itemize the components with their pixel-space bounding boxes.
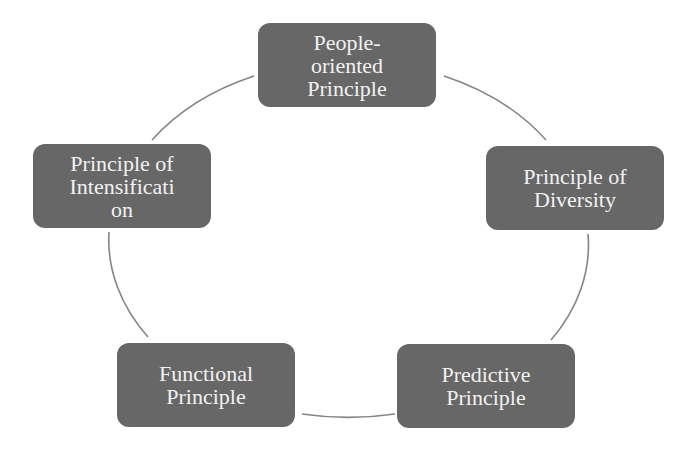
arc-intensification-to-people [152,76,254,140]
arc-functional-to-intensification [109,232,148,337]
arc-predictive-to-functional [302,414,395,417]
node-label: People- oriented Principle [307,31,386,100]
node-principle-of-diversity: Principle of Diversity [486,146,664,230]
node-functional-principle: Functional Principle [117,343,295,427]
arc-diversity-to-predictive [551,234,588,340]
node-label: Predictive Principle [441,363,530,409]
node-people-oriented-principle: People- oriented Principle [258,23,436,107]
node-principle-of-intensification: Principle of Intensificati on [33,144,211,228]
node-predictive-principle: Predictive Principle [397,344,575,428]
arc-people-to-diversity [444,76,546,140]
node-label: Principle of Intensificati on [69,152,174,221]
node-label: Functional Principle [159,362,253,408]
node-label: Principle of Diversity [523,165,626,211]
